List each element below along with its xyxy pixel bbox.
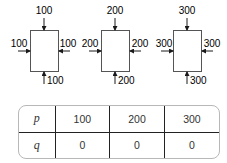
table-cell: 0 [110, 132, 165, 158]
block-diagram-2: 200 200 200 200 [82, 5, 149, 86]
table-cell: 300 [164, 106, 219, 132]
block-2 [102, 31, 130, 72]
bottom-force-label-1: 100 [47, 75, 64, 86]
row-label-p: p [19, 106, 55, 132]
table-cell: 0 [164, 132, 219, 158]
block-diagram-3: 300 300 300 300 [156, 5, 221, 86]
row-label-q: q [19, 132, 55, 158]
table-cell: 0 [55, 132, 110, 158]
bottom-force-label-2: 200 [118, 75, 135, 86]
left-force-label-3: 300 [156, 38, 173, 49]
force-diagrams: 100 100 100 100 200 200 200 200 300 300 … [0, 0, 227, 95]
left-force-label-2: 200 [82, 38, 99, 49]
table-cell: 100 [55, 106, 110, 132]
top-force-label-3: 300 [179, 5, 196, 16]
right-force-label-2: 200 [132, 38, 149, 49]
values-table: p 100 200 300 q 0 0 0 [19, 106, 219, 158]
bottom-force-label-3: 300 [190, 75, 207, 86]
table-row-q: q 0 0 0 [19, 132, 219, 158]
top-force-label-2: 200 [107, 5, 124, 16]
right-force-label-1: 100 [60, 38, 77, 49]
right-force-label-3: 300 [204, 38, 221, 49]
values-table-container: p 100 200 300 q 0 0 0 [18, 105, 220, 159]
block-diagram-1: 100 100 100 100 [11, 5, 77, 86]
table-row-p: p 100 200 300 [19, 106, 219, 132]
block-3 [174, 31, 202, 72]
left-force-label-1: 100 [11, 38, 28, 49]
top-force-label-1: 100 [36, 5, 53, 16]
table-cell: 200 [110, 106, 165, 132]
block-1 [31, 31, 59, 72]
